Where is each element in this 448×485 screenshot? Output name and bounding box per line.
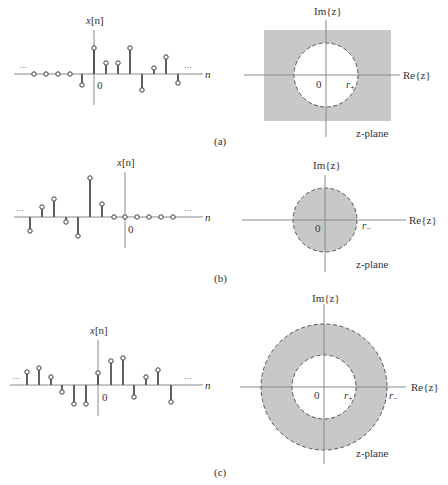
im-label: Im{z} bbox=[314, 5, 342, 17]
caption-b: (b) bbox=[214, 272, 227, 285]
roc-figure: x[n] n 0 ··· ··· bbox=[0, 0, 448, 485]
stems bbox=[25, 356, 173, 406]
im-label: Im{z} bbox=[312, 292, 340, 304]
radius-label: r− bbox=[362, 219, 371, 233]
right-ellipsis: ··· bbox=[184, 63, 192, 72]
plane-label: z-plane bbox=[356, 127, 388, 139]
zplane-a: Im{z} Re{z} 0 r+ z-plane bbox=[244, 5, 431, 139]
outer-radius-label: r− bbox=[389, 389, 398, 403]
re-label: Re{z} bbox=[409, 214, 437, 226]
caption-c: (c) bbox=[214, 466, 227, 479]
left-ellipsis: ··· bbox=[19, 63, 27, 72]
sequence-plot-b: x[n] n 0 ··· ··· bbox=[14, 156, 211, 248]
plane-label: z-plane bbox=[356, 447, 388, 459]
sequence-plot-a: x[n] n 0 ··· ··· bbox=[14, 14, 211, 105]
re-label: Re{z} bbox=[411, 381, 439, 393]
n-label: n bbox=[205, 211, 211, 223]
left-ellipsis: ··· bbox=[12, 374, 20, 383]
origin-label: 0 bbox=[316, 78, 322, 90]
panel-c: x[n] n 0 ··· ··· bbox=[10, 292, 439, 479]
origin-label: 0 bbox=[314, 389, 320, 401]
xn-label: x[n] bbox=[116, 156, 135, 168]
left-ellipsis: ··· bbox=[16, 206, 24, 215]
plane-label: z-plane bbox=[356, 258, 388, 270]
origin-label: 0 bbox=[102, 391, 108, 403]
zplane-b: Im{z} Re{z} 0 r− z-plane bbox=[242, 159, 437, 272]
right-ellipsis: ··· bbox=[184, 374, 192, 383]
stems bbox=[32, 46, 180, 92]
panel-b: x[n] n 0 ··· ··· bbox=[14, 156, 437, 285]
n-label: n bbox=[205, 68, 211, 80]
im-label: Im{z} bbox=[313, 159, 341, 171]
right-ellipsis: ··· bbox=[184, 206, 192, 215]
re-label: Re{z} bbox=[403, 69, 431, 81]
n-label: n bbox=[205, 379, 211, 391]
origin-label: 0 bbox=[315, 222, 321, 234]
xn-label: x[n] bbox=[89, 324, 108, 336]
xn-label: x[n] bbox=[85, 14, 104, 26]
zplane-c: Im{z} Re{z} 0 r+ r− z-plane bbox=[240, 292, 439, 464]
sequence-plot-c: x[n] n 0 ··· ··· bbox=[10, 324, 211, 416]
origin-label: 0 bbox=[128, 223, 134, 235]
stems bbox=[28, 176, 175, 238]
caption-a: (a) bbox=[214, 135, 227, 148]
panel-a: x[n] n 0 ··· ··· bbox=[14, 5, 431, 148]
origin-label: 0 bbox=[97, 79, 103, 91]
